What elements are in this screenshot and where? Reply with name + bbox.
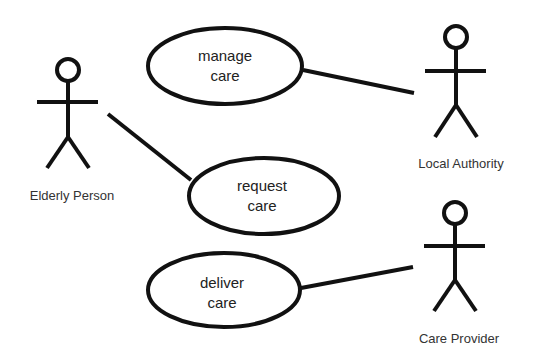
actor-right-leg [455,280,476,311]
actor-left-leg [435,105,456,137]
actor-label-elderly-person: Elderly Person [30,188,115,203]
actor-head [444,202,466,224]
use-case-deliver-care[interactable]: deliver care [148,253,300,327]
use-case-ellipse [148,28,302,104]
use-case-label-line-1: request [237,177,288,194]
actor-head [445,26,467,48]
use-case-label-line-2: care [210,67,239,84]
association-elderly-request [108,114,191,180]
actor-left-leg [434,280,455,311]
actor-left-leg [47,137,68,168]
use-case-label-line-1: deliver [200,274,244,291]
actor-label-care-provider: Care Provider [419,331,500,346]
use-case-ellipse [189,158,339,234]
use-case-label-line-2: care [207,294,236,311]
use-case-manage-care[interactable]: manage care [148,28,302,104]
use-case-diagram: Elderly Person Local Authority Care Prov… [0,0,535,363]
use-case-label-line-1: manage [198,47,252,64]
association-provider-deliver [301,267,413,288]
actor-elderly-person[interactable]: Elderly Person [30,59,115,203]
use-case-label-line-2: care [247,197,276,214]
actor-label-local-authority: Local Authority [418,156,504,171]
actor-right-leg [456,105,477,137]
actor-right-leg [68,137,89,168]
association-authority-manage [303,70,414,93]
use-case-request-care[interactable]: request care [189,158,339,234]
actor-head [57,59,79,81]
actor-care-provider[interactable]: Care Provider [419,202,500,346]
actor-local-authority[interactable]: Local Authority [418,26,504,171]
